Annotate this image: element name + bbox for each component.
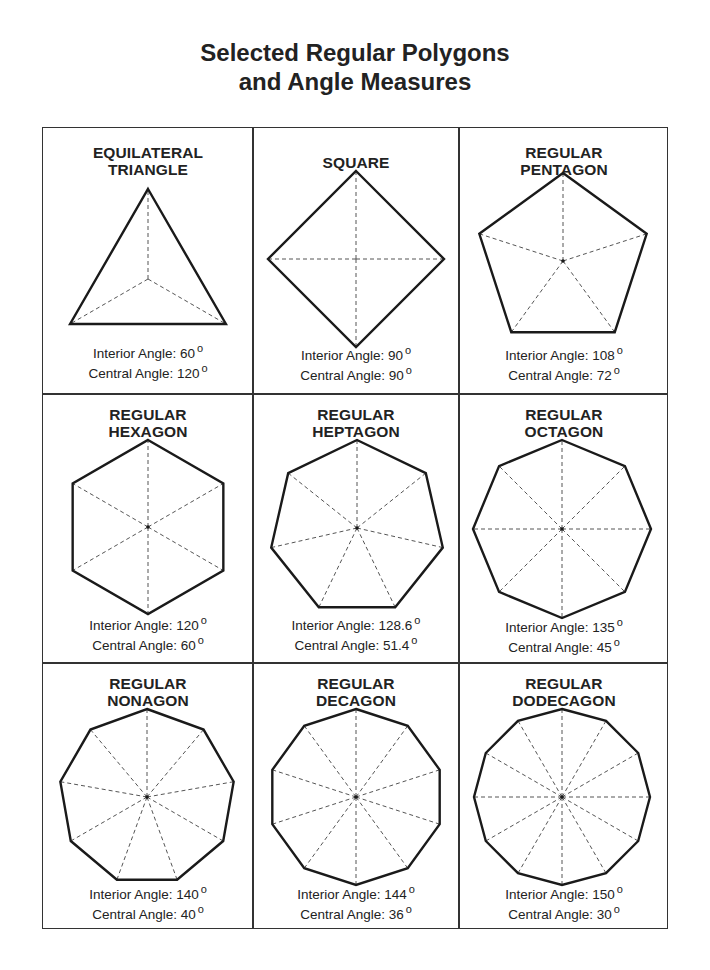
radius-line — [486, 797, 562, 841]
interior-angle: Interior Angle: 128.6o — [253, 616, 459, 636]
radius-line — [147, 797, 177, 880]
radius-line — [147, 782, 234, 797]
central-angle: Central Angle: 60o — [43, 636, 253, 656]
central-angle: Central Angle: 36o — [253, 905, 459, 925]
interior-angle: Interior Angle: 140o — [43, 885, 253, 905]
radius-line — [518, 721, 562, 797]
angle-measures: Interior Angle: 120o Central Angle: 60o — [43, 616, 253, 656]
center-point-icon — [561, 259, 565, 263]
diagram-title: Selected Regular Polygons and Angle Meas… — [0, 38, 710, 96]
cell-pentagon: REGULAR PENTAGON Interior Angle: 108o Ce… — [459, 128, 669, 394]
center-point-icon — [560, 527, 564, 531]
central-angle: Central Angle: 72o — [459, 366, 669, 386]
central-angle: Central Angle: 51.4o — [253, 636, 459, 656]
radius-line — [357, 473, 426, 528]
radius-line — [563, 261, 615, 332]
radius-line — [71, 797, 147, 841]
interior-angle: Interior Angle: 120o — [43, 616, 253, 636]
angle-measures: Interior Angle: 150o Central Angle: 30o — [459, 885, 669, 925]
angle-measures: Interior Angle: 90o Central Angle: 90o — [253, 346, 459, 386]
cell-dodecagon: REGULAR DODECAGON Interior Angle: 150o C… — [459, 663, 669, 930]
cell-decagon: REGULAR DECAGON Interior Angle: 144o Cen… — [253, 663, 459, 930]
polygon-grid: EQUILATERAL TRIANGLE Interior Angle: 60o… — [42, 127, 668, 929]
radius-line — [499, 529, 562, 592]
interior-angle: Interior Angle: 135o — [459, 618, 669, 638]
interior-angle: Interior Angle: 90o — [253, 346, 459, 366]
angle-measures: Interior Angle: 108o Central Angle: 72o — [459, 346, 669, 386]
radius-line — [479, 234, 563, 261]
angle-measures: Interior Angle: 140o Central Angle: 40o — [43, 885, 253, 925]
angle-measures: Interior Angle: 128.6o Central Angle: 51… — [253, 616, 459, 656]
polygon-outline — [271, 440, 443, 607]
radius-line — [271, 528, 357, 548]
center-point-icon — [146, 525, 150, 529]
radius-line — [511, 261, 563, 332]
radius-line — [73, 527, 148, 571]
cell-nonagon: REGULAR NONAGON Interior Angle: 140o Cen… — [43, 663, 253, 930]
radius-line — [148, 484, 223, 528]
radius-line — [60, 782, 147, 797]
central-angle: Central Angle: 30o — [459, 905, 669, 925]
central-angle: Central Angle: 40o — [43, 905, 253, 925]
radius-line — [562, 753, 638, 797]
radius-line — [73, 484, 148, 528]
cell-triangle: EQUILATERAL TRIANGLE Interior Angle: 60o… — [43, 128, 253, 394]
interior-angle: Interior Angle: 60o — [43, 344, 253, 364]
cell-heptagon: REGULAR HEPTAGON Interior Angle: 128.6o … — [253, 394, 459, 663]
center-point-icon — [355, 526, 359, 530]
radius-line — [562, 797, 638, 841]
radius-line — [356, 797, 440, 824]
angle-measures: Interior Angle: 135o Central Angle: 45o — [459, 618, 669, 658]
radius-line — [90, 730, 147, 797]
interior-angle: Interior Angle: 144o — [253, 885, 459, 905]
radius-line — [272, 797, 356, 824]
central-angle: Central Angle: 45o — [459, 638, 669, 658]
radius-line — [499, 466, 562, 529]
radius-line — [357, 528, 443, 548]
interior-angle: Interior Angle: 150o — [459, 885, 669, 905]
radius-line — [486, 753, 562, 797]
radius-line — [272, 770, 356, 797]
radius-line — [356, 770, 440, 797]
center-point-icon — [145, 795, 149, 799]
title-line-1: Selected Regular Polygons — [0, 38, 710, 67]
radius-line — [148, 527, 223, 571]
radius-line — [562, 721, 606, 797]
radius-line — [562, 529, 625, 592]
title-line-2: and Angle Measures — [0, 67, 710, 96]
angle-measures: Interior Angle: 60o Central Angle: 120o — [43, 344, 253, 384]
center-point-icon — [560, 795, 564, 799]
angle-measures: Interior Angle: 144o Central Angle: 36o — [253, 885, 459, 925]
radius-line — [304, 797, 356, 868]
radius-line — [356, 726, 408, 797]
radius-line — [356, 797, 408, 868]
radius-line — [518, 797, 562, 873]
central-angle: Central Angle: 90o — [253, 366, 459, 386]
radius-line — [563, 234, 647, 261]
interior-angle: Interior Angle: 108o — [459, 346, 669, 366]
central-angle: Central Angle: 120o — [43, 364, 253, 384]
cell-octagon: REGULAR OCTAGON Interior Angle: 135o Cen… — [459, 394, 669, 663]
cell-hexagon: REGULAR HEXAGON Interior Angle: 120o Cen… — [43, 394, 253, 663]
radius-line — [147, 730, 204, 797]
radius-line — [288, 473, 357, 528]
radius-line — [304, 726, 356, 797]
cell-square: SQUARE Interior Angle: 90o Central Angle… — [253, 128, 459, 394]
radius-line — [562, 466, 625, 529]
center-point-icon — [354, 795, 358, 799]
radius-line — [117, 797, 147, 880]
radius-line — [319, 528, 357, 607]
radius-line — [147, 797, 223, 841]
radius-line — [562, 797, 606, 873]
radius-line — [357, 528, 395, 607]
